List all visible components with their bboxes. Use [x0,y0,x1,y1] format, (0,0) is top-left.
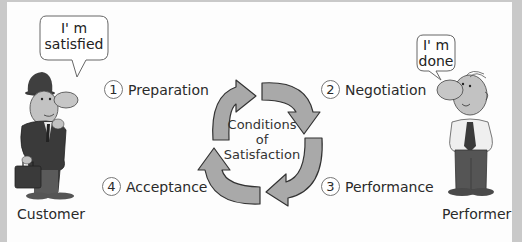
step-label: Performance [345,179,434,195]
step-label: Negotiation [345,82,426,98]
performer-speech-line-1: I' m [417,37,455,53]
step-label: Acceptance [126,179,207,195]
customer-figure [15,72,78,200]
center-label-line-2: of [221,132,303,147]
performer-label: Performer [442,206,511,222]
step-number-badge: 3 [321,177,340,196]
step-preparation: 1 Preparation [104,80,209,99]
step-negotiation: 2 Negotiation [321,80,426,99]
performer-figure [437,71,494,196]
step-number-badge: 4 [102,177,121,196]
customer-speech-line-1: I' m [40,20,108,36]
center-label-line-3: Satisfaction [221,147,303,162]
center-label-line-1: Conditions [221,117,303,132]
step-performance: 3 Performance [321,177,434,196]
performer-speech-text: I' m done [417,37,455,69]
step-acceptance: 4 Acceptance [102,177,207,196]
customer-speech-line-2: satisfied [40,36,108,52]
step-number-badge: 2 [321,80,340,99]
performer-speech-line-2: done [417,53,455,69]
step-number-badge: 1 [104,80,123,99]
step-label: Preparation [128,82,209,98]
center-label: Conditions of Satisfaction [221,117,303,162]
customer-label: Customer [17,206,85,222]
customer-speech-text: I' m satisfied [40,20,108,52]
